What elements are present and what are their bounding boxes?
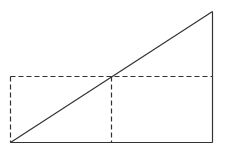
dashed-lines <box>11 77 213 143</box>
triangle-rectangle-diagram <box>0 0 226 154</box>
